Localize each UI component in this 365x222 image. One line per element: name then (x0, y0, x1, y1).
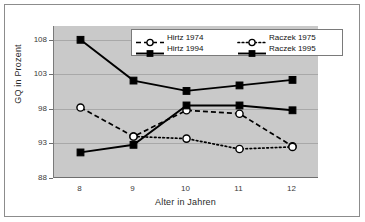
y-axis-tick-label: 88 (13, 174, 47, 182)
y-axis-tick-mark (49, 109, 53, 110)
chart-figure: GQ in Prozent 108 103 98 93 88 8 9 10 11… (0, 0, 365, 222)
legend-row: Hirtz 1994 Raczek 1995 (135, 43, 339, 54)
y-axis-tick-label: 93 (13, 139, 47, 147)
y-axis-tick-mark (49, 40, 53, 41)
data-point-marker (77, 36, 84, 43)
chart-frame: GQ in Prozent 108 103 98 93 88 8 9 10 11… (4, 4, 360, 217)
legend-key-dotted-open-circle-icon (237, 33, 267, 42)
data-point-marker (77, 104, 84, 111)
data-point-marker (236, 102, 243, 109)
x-axis-label: Alter in Jahren (53, 197, 318, 207)
data-point-marker (289, 76, 296, 83)
data-point-marker (236, 110, 243, 117)
legend-label: Raczek 1975 (269, 33, 316, 42)
x-axis-tick-label: 11 (224, 185, 254, 193)
data-point-marker (130, 133, 137, 140)
y-axis-tick-mark (49, 143, 53, 144)
chart-legend: Hirtz 1974 Raczek 1975 Hirtz 1994 Raczek… (131, 29, 343, 56)
y-axis-tick-label: 103 (13, 70, 47, 78)
series-line (134, 137, 293, 150)
x-axis-tick-label: 9 (118, 185, 148, 193)
data-point-marker (130, 77, 137, 84)
legend-entry-hirtz-1974: Hirtz 1974 (135, 33, 237, 42)
data-point-marker (130, 141, 137, 148)
legend-entry-hirtz-1994: Hirtz 1994 (135, 44, 237, 53)
x-axis-tick-label: 8 (65, 185, 95, 193)
data-point-marker (289, 107, 296, 114)
data-point-marker (183, 135, 190, 142)
legend-label: Hirtz 1994 (167, 44, 203, 53)
data-point-marker (289, 143, 296, 150)
y-axis-tick-label: 108 (13, 36, 47, 44)
legend-label: Hirtz 1974 (167, 33, 203, 42)
legend-entry-raczek-1975: Raczek 1975 (237, 33, 339, 42)
legend-entry-raczek-1995: Raczek 1995 (237, 44, 339, 53)
data-point-marker (236, 145, 243, 152)
x-axis-tick-label: 12 (277, 185, 307, 193)
data-point-marker (183, 88, 190, 95)
legend-row: Hirtz 1974 Raczek 1975 (135, 32, 339, 43)
y-axis-tick-mark (49, 178, 53, 179)
x-axis-tick-label: 10 (171, 185, 201, 193)
legend-key-dashed-open-circle-icon (135, 33, 165, 42)
data-point-marker (77, 149, 84, 156)
y-axis-tick-mark (49, 74, 53, 75)
y-axis-tick-label: 98 (13, 105, 47, 113)
data-point-marker (236, 82, 243, 89)
legend-label: Raczek 1995 (269, 44, 316, 53)
legend-key-solid-filled-square-icon (135, 44, 165, 53)
legend-key-solid-filled-square-icon (237, 44, 267, 53)
data-point-marker (183, 102, 190, 109)
